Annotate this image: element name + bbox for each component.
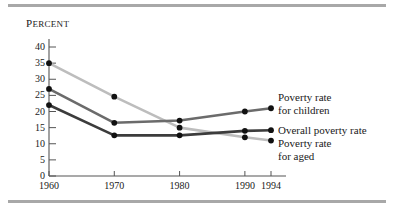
series-group: [46, 60, 274, 143]
poverty-rate-chart-figure: PERCENT 0510152025303540 196019701980199…: [0, 0, 394, 210]
y-tick-label: 40: [23, 42, 45, 52]
data-point: [268, 127, 274, 133]
data-point: [46, 86, 52, 92]
y-tick-label: 5: [23, 155, 45, 165]
data-point: [242, 128, 248, 134]
plot-area: [0, 0, 394, 210]
x-tick-label: 1990: [235, 181, 255, 191]
data-point: [111, 132, 117, 138]
data-point: [46, 102, 52, 108]
y-tick-label: 10: [23, 139, 45, 149]
series-label-2: Overall poverty rate: [278, 124, 367, 137]
series-label-line: Poverty rate: [278, 91, 331, 104]
data-point: [268, 138, 274, 144]
series-label-line: Poverty rate: [278, 137, 331, 150]
data-point: [177, 118, 183, 124]
data-point: [268, 105, 274, 111]
series-label-line: for aged: [278, 150, 331, 163]
x-tick-label: 1994: [261, 181, 281, 191]
series-label-3: Poverty ratefor aged: [278, 137, 331, 162]
data-point: [242, 109, 248, 115]
data-point: [177, 132, 183, 138]
series-label-line: Overall poverty rate: [278, 124, 367, 137]
data-point: [242, 134, 248, 140]
x-tick-label: 1980: [170, 181, 190, 191]
y-tick-label: 25: [23, 90, 45, 100]
data-point: [46, 60, 52, 66]
series-label-1: Poverty ratefor children: [278, 91, 331, 116]
data-point: [111, 94, 117, 100]
x-tick-label: 1970: [104, 181, 124, 191]
series-label-line: for children: [278, 104, 331, 117]
y-tick-label: 20: [23, 107, 45, 117]
data-point: [111, 120, 117, 126]
series-line-3: [49, 63, 271, 140]
y-tick-label: 30: [23, 74, 45, 84]
y-tick-label: 35: [23, 58, 45, 68]
x-tick-label: 1960: [39, 181, 59, 191]
data-point: [177, 125, 183, 131]
y-tick-label: 15: [23, 123, 45, 133]
